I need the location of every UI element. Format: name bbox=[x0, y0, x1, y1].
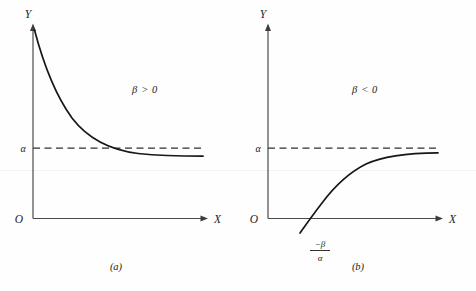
panel-a-caption: (a) bbox=[110, 261, 123, 273]
panel-a-origin-label: O bbox=[15, 213, 24, 225]
panel-b-alpha-label: α bbox=[255, 143, 261, 154]
panel-a-x-axis-label: X bbox=[213, 213, 222, 225]
figure-container: Y X O α β > 0 (a) Y X O α β < 0 bbox=[0, 0, 476, 291]
panel-b-curve bbox=[300, 153, 438, 233]
panel-b-x-axis-label: X bbox=[448, 213, 457, 225]
panel-b-origin-label: O bbox=[250, 213, 259, 225]
panel-b-caption: (b) bbox=[352, 261, 365, 273]
panel-b: Y X O α β < 0 −β α (b) bbox=[250, 8, 457, 273]
panel-b-y-axis-label: Y bbox=[260, 8, 268, 20]
panel-a-condition-label: β > 0 bbox=[131, 84, 158, 95]
panel-a: Y X O α β > 0 (a) bbox=[15, 8, 222, 273]
panel-a-alpha-label: α bbox=[20, 143, 26, 154]
two-panel-regression-figure: Y X O α β > 0 (a) Y X O α β < 0 bbox=[0, 0, 476, 291]
panel-a-curve bbox=[35, 30, 204, 156]
panel-b-y-axis-arrowhead bbox=[265, 24, 271, 32]
panel-a-x-axis-arrowhead bbox=[201, 216, 209, 222]
panel-a-y-axis-label: Y bbox=[25, 8, 33, 20]
panel-b-x-intercept-numerator: −β bbox=[315, 239, 326, 249]
panel-b-x-intercept-denominator: α bbox=[318, 253, 323, 263]
panel-b-x-axis-arrowhead bbox=[436, 216, 444, 222]
panel-b-condition-label: β < 0 bbox=[351, 84, 378, 95]
panel-b-x-intercept-label: −β α bbox=[310, 239, 330, 263]
